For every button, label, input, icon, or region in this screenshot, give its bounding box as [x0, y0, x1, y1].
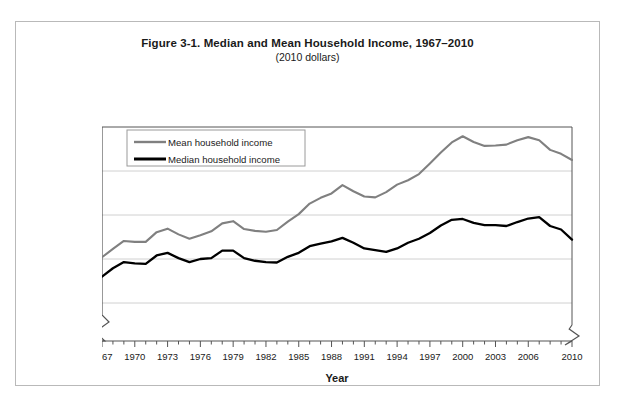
plot-area: 75,00065,00055,00045,00035,0001967197019…	[102, 106, 591, 386]
x-axis-title: Year	[325, 372, 349, 384]
x-axis-tick-label: 1970	[124, 351, 145, 362]
x-axis-tick-label: 1985	[288, 351, 309, 362]
x-axis-tick-label: 1979	[223, 351, 244, 362]
y-axis-line-with-break	[102, 127, 109, 341]
x-axis-tick-label: 1967	[102, 351, 113, 362]
series-line-median	[102, 217, 572, 276]
legend-label-median: Median household income	[168, 154, 280, 165]
page-title: Figure 3-1. Median and Mean Household In…	[16, 36, 599, 50]
x-axis-tick-label: 1994	[387, 351, 408, 362]
title-block: Figure 3-1. Median and Mean Household In…	[16, 36, 599, 65]
x-axis-tick-label: 2000	[452, 351, 473, 362]
x-axis-tick-label: 2010	[561, 351, 582, 362]
chart-subtitle: (2010 dollars)	[16, 50, 599, 65]
legend-label-mean: Mean household income	[168, 137, 273, 148]
x-axis-tick-label: 2003	[485, 351, 506, 362]
x-axis-tick-label: 1988	[321, 351, 342, 362]
x-axis-tick-label: 1973	[157, 351, 178, 362]
figure-frame: Figure 3-1. Median and Mean Household In…	[15, 21, 600, 386]
x-axis-tick-label: 1976	[190, 351, 211, 362]
line-chart: 75,00065,00055,00045,00035,0001967197019…	[102, 106, 591, 386]
x-axis-tick-label: 1982	[255, 351, 276, 362]
x-axis-tick-label: 1991	[354, 351, 375, 362]
x-axis-tick-label: 2006	[518, 351, 539, 362]
chart-legend: Mean household incomeMedian household in…	[127, 130, 305, 166]
x-axis-tick-label: 1997	[419, 351, 440, 362]
